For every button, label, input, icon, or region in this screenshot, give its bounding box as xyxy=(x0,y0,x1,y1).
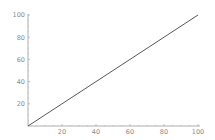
x-tick-label: 60 xyxy=(126,128,134,136)
plot-area xyxy=(28,15,198,126)
x-tick-label: 20 xyxy=(58,128,66,136)
y-tick-label: 60 xyxy=(17,56,25,64)
x-tick-label: 80 xyxy=(160,128,168,136)
data-line xyxy=(28,15,198,126)
y-tick-label: 80 xyxy=(17,34,25,42)
line-chart: 2040608010020406080100 xyxy=(0,0,215,140)
x-tick-label: 40 xyxy=(92,128,100,136)
y-tick-label: 40 xyxy=(17,78,25,86)
y-tick-label: 100 xyxy=(13,11,25,19)
x-tick-label: 100 xyxy=(192,128,204,136)
y-tick-label: 20 xyxy=(17,100,25,108)
